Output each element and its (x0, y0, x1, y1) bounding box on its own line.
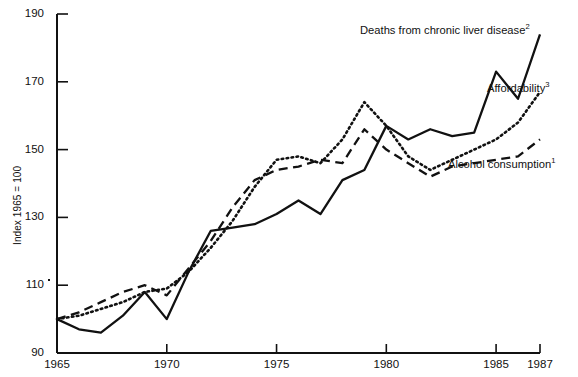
x-tick-label-1987: 1987 (525, 358, 555, 370)
chart-plot-area (0, 0, 578, 377)
y-tick-label-110: 110 (10, 278, 44, 290)
stray-mark (48, 279, 50, 281)
footnote-marker: 3 (545, 80, 549, 89)
y-tick-label-150: 150 (10, 143, 44, 155)
series-label-1: Affordability3 (487, 82, 549, 94)
series-line-solid (57, 34, 540, 332)
x-tick-label-1985: 1985 (481, 358, 511, 370)
x-tick-label-1965: 1965 (42, 358, 72, 370)
y-tick-label-130: 130 (10, 210, 44, 222)
chart-figure: Index 1965 = 100 90110130150170190 19651… (0, 0, 578, 377)
chart-series (57, 34, 540, 332)
series-label-2: Alcohol consumption1 (448, 158, 555, 170)
footnote-marker: 1 (551, 156, 555, 165)
x-tick-label-1980: 1980 (371, 358, 401, 370)
y-tick-label-170: 170 (10, 75, 44, 87)
y-tick-label-90: 90 (10, 346, 44, 358)
x-tick-label-1970: 1970 (152, 358, 182, 370)
series-label-0: Deaths from chronic liver disease2 (360, 24, 530, 36)
y-tick-label-190: 190 (10, 7, 44, 19)
cropped-caption-strip (0, 370, 578, 377)
x-tick-label-1975: 1975 (262, 358, 292, 370)
series-line-dotted (57, 92, 540, 319)
footnote-marker: 2 (525, 22, 529, 31)
chart-axes (57, 14, 540, 353)
